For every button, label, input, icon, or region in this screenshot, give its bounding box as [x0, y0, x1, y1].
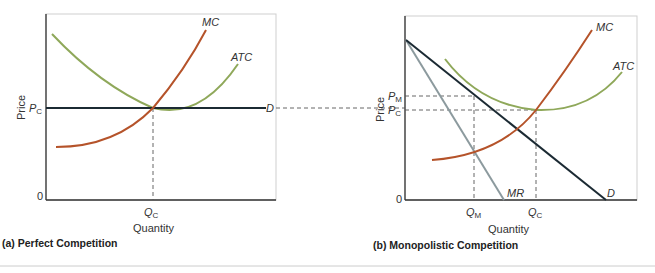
panel-b-d-label: D — [607, 187, 615, 199]
panel-b-atc-label: ATC — [612, 60, 634, 72]
panel-a-atc-curve — [52, 34, 238, 110]
panel-a-caption: (a) Perfect Competition — [2, 237, 118, 249]
panel-b-demand-line — [406, 40, 606, 200]
panel-b-mc-label: MC — [596, 21, 613, 33]
panel-b-qc-label: QC — [528, 206, 543, 220]
panel-b-pc-label: PC — [388, 104, 401, 118]
panel-a-y-axis-label: Price — [15, 95, 27, 120]
panel-b-mc-curve — [432, 30, 592, 160]
panel-b-y-axis-label: Price — [374, 97, 386, 122]
panel-a-d-label: D — [266, 102, 274, 114]
panel-a: MC ATC D 0 Price PC QC Quantity (a) Perf… — [2, 14, 405, 249]
panel-b-caption: (b) Monopolistic Competition — [373, 239, 518, 251]
panel-b-qm-label: QM — [466, 206, 482, 220]
panel-a-origin-label: 0 — [37, 190, 43, 202]
panel-a-pc-label: PC — [29, 102, 42, 116]
panel-a-mc-curve — [56, 30, 206, 147]
panel-b-origin-label: 0 — [396, 193, 402, 205]
panel-a-x-axis-label: Quantity — [133, 222, 174, 234]
panel-b-mr-line — [406, 40, 504, 200]
panel-b: MC ATC D MR 0 Price PM PC QM QC Quantity… — [373, 16, 637, 251]
panel-b-atc-curve — [445, 59, 622, 110]
panel-b-mr-label: MR — [507, 187, 524, 199]
panel-a-qc-label: QC — [144, 206, 159, 220]
panel-b-pm-label: PM — [388, 90, 402, 104]
diagram-canvas: MC ATC D 0 Price PC QC Quantity (a) Perf… — [0, 0, 655, 273]
panel-a-atc-label: ATC — [230, 51, 252, 63]
panel-a-mc-label: MC — [202, 16, 219, 28]
panel-b-x-axis-label: Quantity — [488, 223, 529, 235]
